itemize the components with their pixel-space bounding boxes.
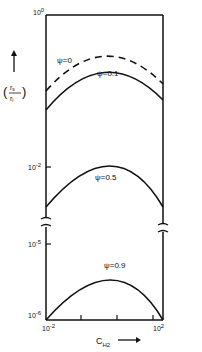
y-label-low: 10-5 [28,239,42,248]
label-psi-0.5: ψ=0.5 [95,173,117,182]
label-psi-0: ψ=0 [57,56,72,65]
svg-text:(: ( [3,84,8,99]
x-label-left: 10-2 [42,323,56,332]
label-psi-0.1: ψ=0.1 [97,69,119,78]
axis-break-left [41,218,51,227]
label-psi-0.9: ψ=0.9 [104,261,126,270]
svg-text:): ) [22,84,26,99]
curve-psi-0.9 [46,280,163,320]
axis-break-right [158,224,168,233]
svg-text:ri: ri [10,95,13,103]
y-label-bottom: 10-6 [28,310,42,319]
y-axis-title: ( ) rs ri [3,84,26,103]
y-arrow-icon [11,50,17,72]
x-arrow-icon [118,337,141,343]
x-axis-title: CH2 [96,336,111,348]
y-label-mid: 10-2 [28,162,42,171]
svg-text:rs: rs [10,84,15,92]
chart: 100 10-2 10-5 10-6 10-2 102 CH2 ( ) rs r… [0,0,202,352]
x-label-right: 102 [153,323,165,332]
y-label-top: 100 [33,7,45,16]
